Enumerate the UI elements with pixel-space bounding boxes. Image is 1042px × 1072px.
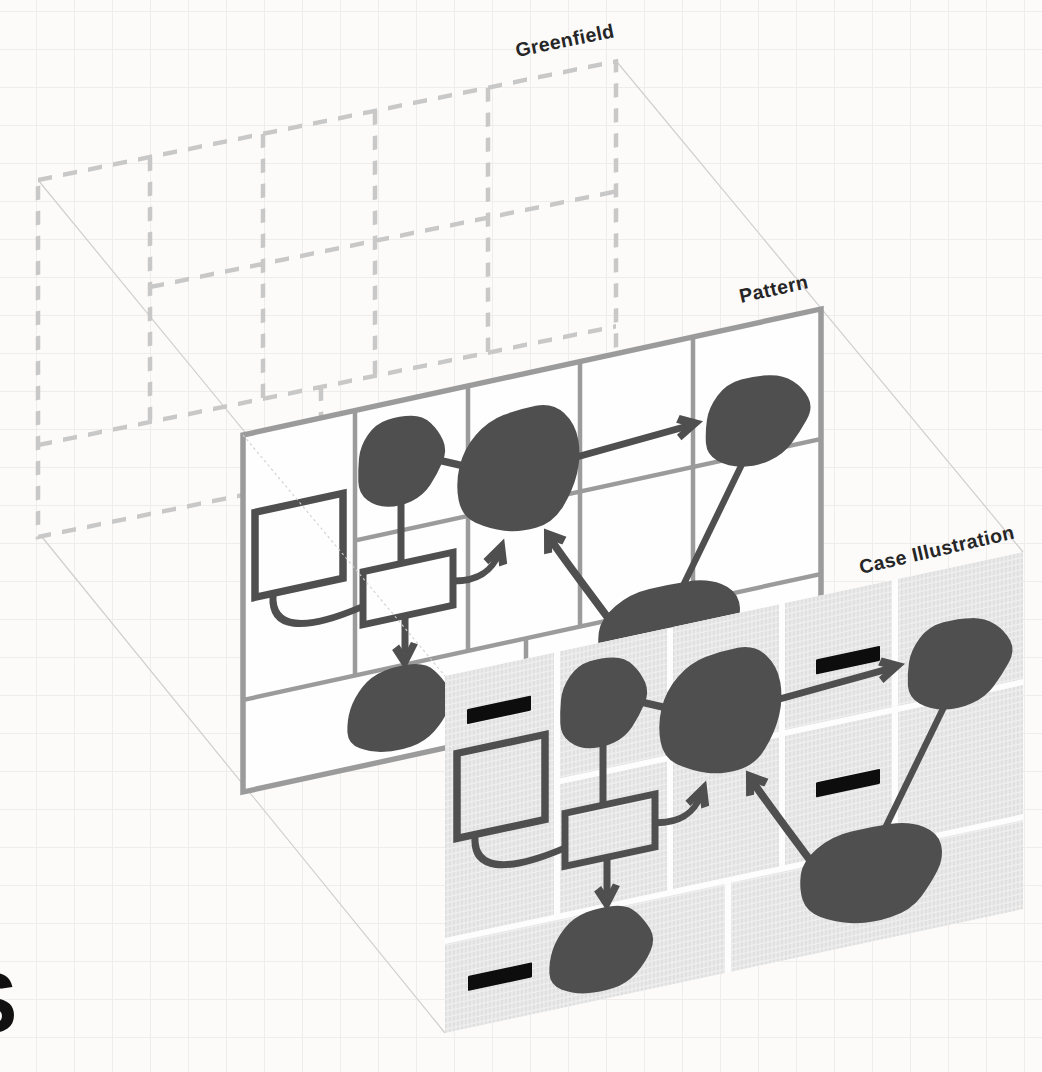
layered-planes-diagram: Greenfield Pattern Case Illustration S (0, 0, 1042, 1072)
case-cell (445, 653, 554, 938)
book-page: Greenfield Pattern Case Illustration S (0, 0, 1042, 1072)
cropped-letter-s: S (0, 954, 17, 1050)
